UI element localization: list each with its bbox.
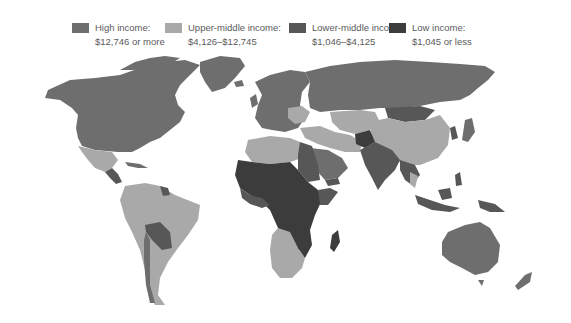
region-north-africa: [245, 136, 302, 164]
region-japan: [462, 118, 475, 142]
swatch-low-income: [389, 23, 406, 33]
world-map: [0, 40, 571, 323]
region-new-zealand: [515, 272, 532, 290]
legend-label: Low income:: [412, 21, 472, 35]
region-caribbean: [125, 162, 148, 168]
region-korea: [450, 126, 458, 140]
region-borneo: [438, 188, 452, 200]
region-indonesia: [415, 195, 460, 212]
swatch-lower-middle-income: [289, 23, 306, 33]
region-british-isles: [250, 94, 258, 108]
legend-label: High income:: [95, 21, 165, 35]
legend-label: Upper-middle income:: [188, 21, 281, 35]
region-madagascar: [330, 230, 340, 252]
region-europe: [255, 70, 310, 132]
region-tasmania: [478, 280, 484, 286]
region-north-america: [45, 60, 200, 152]
swatch-upper-middle-income: [165, 23, 182, 33]
region-australia: [442, 222, 500, 275]
region-philippines: [455, 172, 462, 186]
region-horn-of-africa: [318, 188, 338, 205]
swatch-high-income: [72, 23, 89, 33]
region-iceland: [234, 80, 244, 87]
region-new-guinea: [478, 200, 505, 212]
region-russia: [305, 60, 495, 112]
